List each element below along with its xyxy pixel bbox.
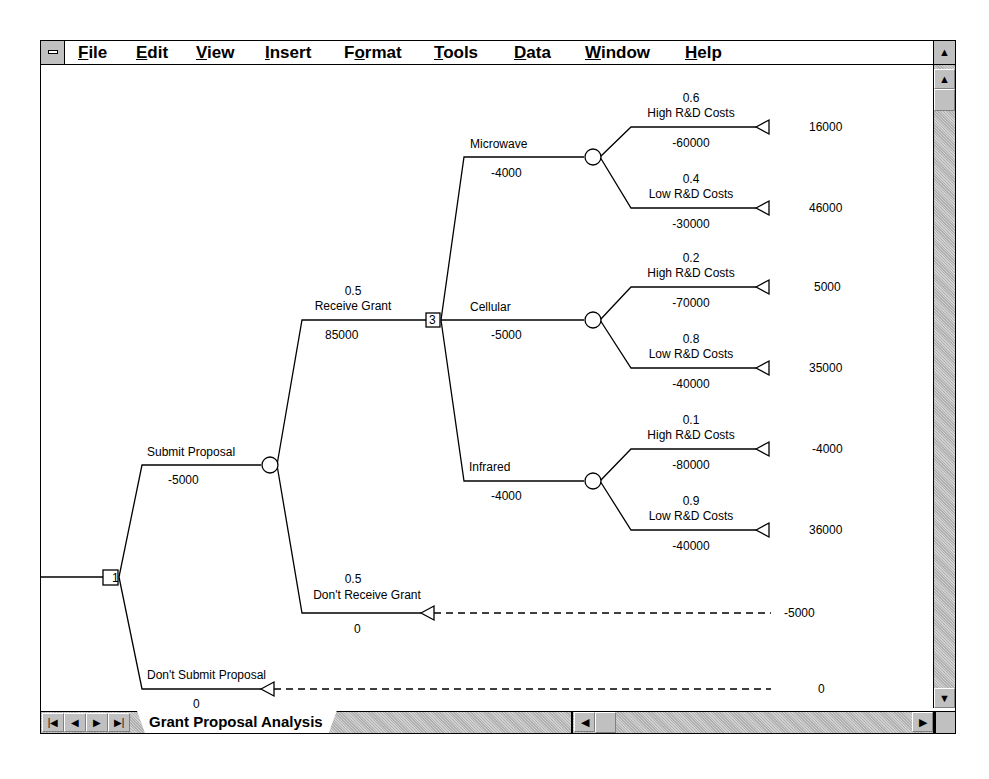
branch-value: -70000 <box>672 296 709 310</box>
menu-help-label: elp <box>697 43 722 62</box>
vertical-scrollbar[interactable]: ▲ ▼ <box>933 65 955 708</box>
branch-value: -4000 <box>491 166 522 180</box>
first-sheet-icon[interactable]: |◀ <box>42 713 64 732</box>
sheet-tab-bar: |◀ ◀ ▶ ▶| Grant Proposal Analysis ◀ ▶ <box>41 711 955 733</box>
menu-format[interactable]: Format <box>344 42 402 63</box>
menu-view[interactable]: View <box>196 42 234 63</box>
branch-value: -5000 <box>491 328 522 342</box>
branch-label: Low R&D Costs <box>649 187 734 201</box>
branch-value: -40000 <box>672 377 709 391</box>
spreadsheet-window: File Edit View Insert Format Tools Data … <box>40 40 956 734</box>
branch-label: High R&D Costs <box>647 428 734 442</box>
menu-tools-label: ools <box>443 43 478 62</box>
terminal-node[interactable] <box>261 682 274 696</box>
terminal-node[interactable] <box>756 442 769 456</box>
next-sheet-icon[interactable]: ▶ <box>86 713 108 732</box>
menu-bar: File Edit View Insert Format Tools Data … <box>41 41 955 65</box>
branch-label: Don't Submit Proposal <box>147 668 266 682</box>
terminal-node[interactable] <box>756 523 769 537</box>
branch-label: Don't Receive Grant <box>313 588 421 602</box>
branch-value: -5000 <box>168 473 199 487</box>
terminal-node[interactable] <box>756 361 769 375</box>
branch-value: 0 <box>193 697 200 711</box>
branch-label: High R&D Costs <box>647 266 734 280</box>
scroll-up-icon[interactable]: ▲ <box>934 69 955 89</box>
payoff-value: 0 <box>818 682 825 696</box>
menu-window[interactable]: Window <box>585 42 650 63</box>
menu-view-label: iew <box>207 43 234 62</box>
payoff-value: 5000 <box>814 280 841 294</box>
branch-probability: 0.2 <box>683 251 700 265</box>
branch-probability: 0.5 <box>345 572 362 586</box>
branch-label: Infrared <box>469 460 510 474</box>
scroll-left-icon[interactable]: ◀ <box>574 712 595 732</box>
branch-value: -80000 <box>672 458 709 472</box>
vertical-scroll-thumb[interactable] <box>934 89 955 111</box>
branch-value: 85000 <box>325 328 358 342</box>
branch-probability: 0.9 <box>683 494 700 508</box>
prev-sheet-icon[interactable]: ◀ <box>64 713 86 732</box>
branch-value: -60000 <box>672 136 709 150</box>
terminal-node[interactable] <box>421 606 434 620</box>
sheet-tab-grant-proposal-analysis[interactable]: Grant Proposal Analysis <box>137 711 337 733</box>
scroll-right-icon[interactable]: ▶ <box>912 712 933 732</box>
chance-node-cellular[interactable] <box>585 312 601 328</box>
branch-label: High R&D Costs <box>647 106 734 120</box>
branch-value: 0 <box>354 622 361 636</box>
payoff-value: 46000 <box>809 201 842 215</box>
chance-node-infrared[interactable] <box>585 473 601 489</box>
menu-file-label: ile <box>88 43 107 62</box>
menu-insert-label: nsert <box>270 43 312 62</box>
decision-tree-canvas: 1 3 Submit Proposal <box>41 65 933 712</box>
branch-value: -30000 <box>672 217 709 231</box>
payoff-value: -4000 <box>812 442 843 456</box>
decision-node-1-id: 1 <box>112 571 119 585</box>
chance-node-microwave[interactable] <box>585 149 601 165</box>
branch-label: Submit Proposal <box>147 445 235 459</box>
branch-probability: 0.5 <box>345 284 362 298</box>
chance-node-grant[interactable] <box>262 457 278 473</box>
horizontal-scrollbar[interactable]: ◀ ▶ <box>571 712 933 733</box>
menu-window-label: indow <box>601 43 650 62</box>
restore-arrows-icon[interactable]: ▲ <box>933 41 955 64</box>
terminal-node[interactable] <box>756 280 769 294</box>
branch-label: Receive Grant <box>315 299 392 313</box>
payoff-value: 36000 <box>809 523 842 537</box>
branch-probability: 0.6 <box>683 91 700 105</box>
branch-probability: 0.4 <box>683 172 700 186</box>
last-sheet-icon[interactable]: ▶| <box>108 713 130 732</box>
decision-node-3-id: 3 <box>429 313 436 327</box>
horizontal-scroll-thumb[interactable] <box>595 712 616 733</box>
menu-data-label: ata <box>526 43 551 62</box>
scroll-down-icon[interactable]: ▼ <box>934 688 955 708</box>
branch-label: Low R&D Costs <box>649 347 734 361</box>
payoff-value: 16000 <box>809 120 842 134</box>
branch-label: Low R&D Costs <box>649 509 734 523</box>
branch-value: -40000 <box>672 539 709 553</box>
branch-label: Microwave <box>470 137 527 151</box>
menu-edit-label: dit <box>147 43 168 62</box>
terminal-node[interactable] <box>756 120 769 134</box>
terminal-node[interactable] <box>756 201 769 215</box>
branch-probability: 0.8 <box>683 332 700 346</box>
menu-insert[interactable]: Insert <box>265 42 311 63</box>
branch-value: -4000 <box>491 489 522 503</box>
payoff-value: 35000 <box>809 361 842 375</box>
menu-edit[interactable]: Edit <box>136 42 168 63</box>
payoff-value: -5000 <box>784 606 815 620</box>
menu-help[interactable]: Help <box>685 42 722 63</box>
system-menu-icon[interactable] <box>41 41 65 64</box>
menu-tools[interactable]: Tools <box>434 42 478 63</box>
menu-data[interactable]: Data <box>514 42 551 63</box>
menu-format-label: rmat <box>365 43 402 62</box>
scrollbar-corner <box>933 712 955 733</box>
menu-file[interactable]: File <box>78 42 107 63</box>
branch-probability: 0.1 <box>683 413 700 427</box>
branch-label: Cellular <box>470 300 511 314</box>
